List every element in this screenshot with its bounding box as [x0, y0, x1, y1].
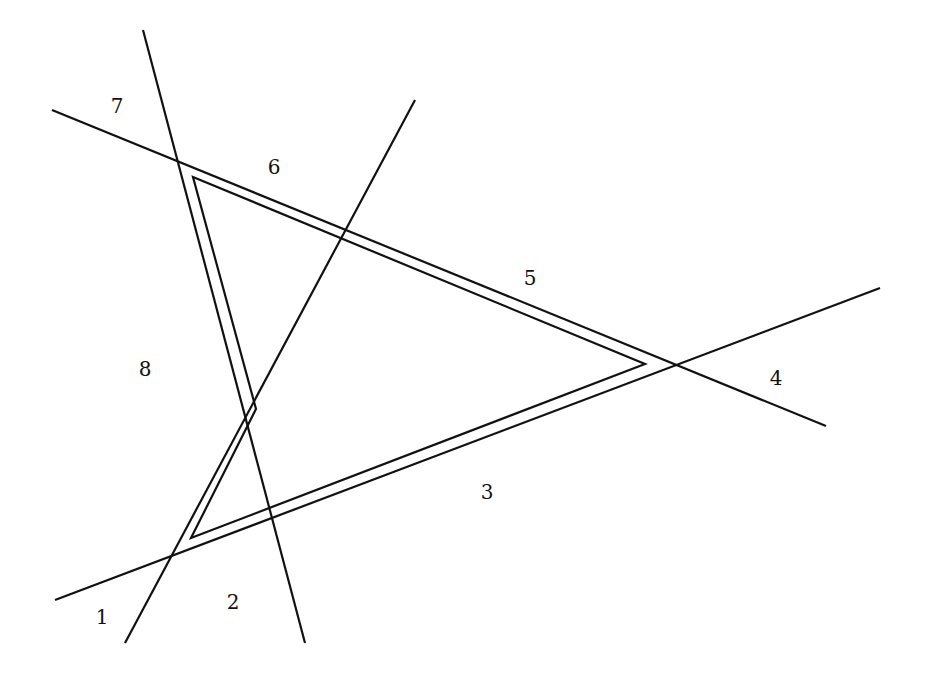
line-b	[143, 30, 305, 643]
lines-group	[52, 30, 880, 643]
region-label-6: 6	[268, 157, 281, 177]
inner-path	[191, 177, 645, 538]
region-label-3: 3	[481, 482, 494, 502]
region-label-5: 5	[524, 268, 537, 288]
region-label-4: 4	[770, 368, 783, 388]
region-label-8: 8	[139, 359, 152, 379]
region-label-1: 1	[96, 607, 109, 627]
diagram-canvas	[0, 0, 927, 686]
line-a	[52, 110, 826, 426]
region-label-2: 2	[227, 592, 240, 612]
line-d	[55, 288, 880, 600]
line-c	[125, 100, 415, 643]
region-label-7: 7	[111, 96, 124, 116]
